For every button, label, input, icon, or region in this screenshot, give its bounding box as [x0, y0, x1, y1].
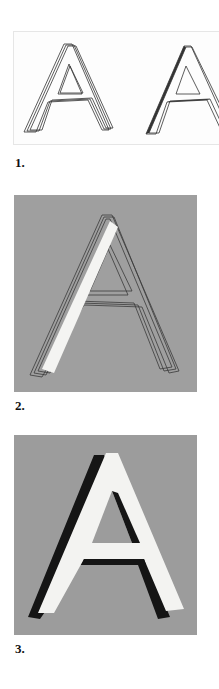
painted-letter-a-with-shadow-illustration	[14, 435, 197, 635]
panel-1-label: 1.	[15, 155, 25, 171]
outline-letter-a-with-highlight-illustration	[14, 195, 197, 392]
panel-2-label: 2.	[15, 398, 25, 414]
panel-3-shadowed-letter	[14, 435, 197, 635]
panel-3-label: 3.	[15, 641, 25, 657]
panel-1-outline-letters	[13, 31, 219, 145]
outline-letter-a-pair-illustration	[14, 32, 219, 146]
panel-2-highlighted-letter	[14, 195, 197, 392]
